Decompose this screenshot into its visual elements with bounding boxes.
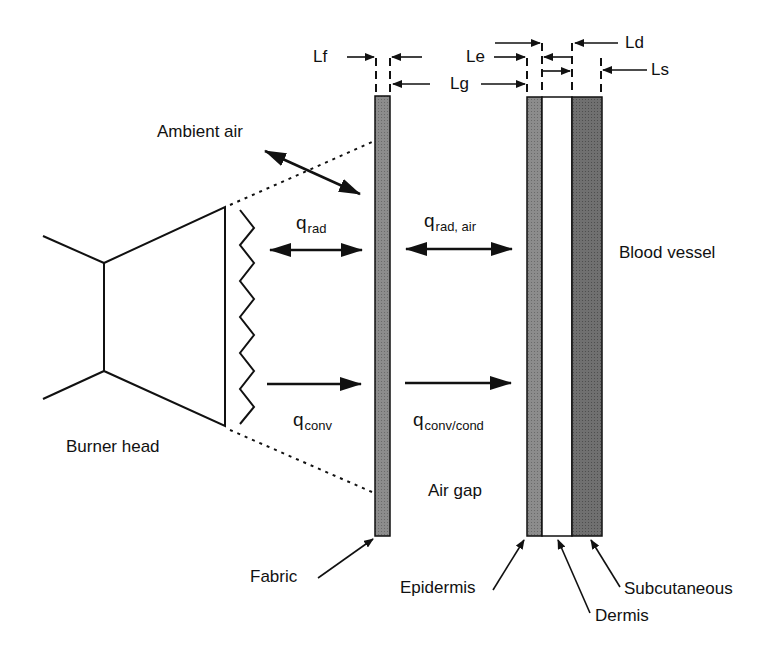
flame-boundary-bottom <box>230 430 372 492</box>
label-blood-vessel: Blood vessel <box>619 244 715 261</box>
label-air-gap: Air gap <box>428 482 482 499</box>
label-subcutaneous: Subcutaneous <box>624 580 733 597</box>
q-conv-symbol: q <box>293 409 304 430</box>
label-dermis: Dermis <box>595 607 649 624</box>
heat-transfer-diagram <box>0 0 776 651</box>
label-ambient-air: Ambient air <box>157 123 243 140</box>
q-rad-air-symbol: q <box>424 210 435 231</box>
pointer-arrows <box>318 539 620 613</box>
label-epidermis: Epidermis <box>400 579 476 596</box>
label-q-rad: qrad <box>296 213 326 235</box>
label-ls: Ls <box>651 61 669 78</box>
label-lf: Lf <box>313 48 327 65</box>
q-conv-cond-symbol: q <box>413 409 424 430</box>
label-q-rad-air: qrad, air <box>424 211 476 233</box>
label-burner-head: Burner head <box>66 438 160 455</box>
dermis-layer <box>542 97 572 536</box>
label-lg: Lg <box>450 75 469 92</box>
q-conv-cond-subscript: conv/cond <box>425 418 484 433</box>
burner-head-shape <box>43 207 225 426</box>
fabric-layer <box>375 96 390 536</box>
label-q-conv-cond: qconv/cond <box>413 410 484 432</box>
q-rad-air-subscript: rad, air <box>436 219 476 234</box>
ambient-air-arrow <box>265 151 360 194</box>
label-ld: Ld <box>625 34 644 51</box>
flame-boundary-top <box>230 142 372 205</box>
label-fabric: Fabric <box>250 568 297 585</box>
epidermis-layer <box>527 97 542 536</box>
label-le: Le <box>466 48 485 65</box>
subcutaneous-layer <box>572 97 602 536</box>
label-q-conv: qconv <box>293 410 332 432</box>
q-conv-subscript: conv <box>305 418 332 433</box>
q-rad-subscript: rad <box>308 221 327 236</box>
dimension-guides <box>376 43 601 95</box>
q-rad-symbol: q <box>296 212 307 233</box>
flame-zigzag-icon <box>240 210 254 424</box>
